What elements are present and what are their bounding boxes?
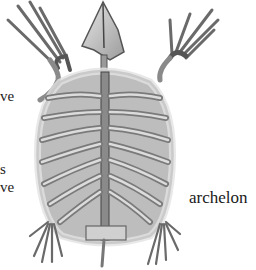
- text-fragment-ve-2: ve: [0, 180, 14, 195]
- caption-archelon: archelon: [189, 188, 248, 208]
- right-front-flipper: [170, 10, 218, 58]
- text-fragment-ve-1: ve: [0, 89, 14, 104]
- left-front-flipper: [8, 2, 70, 70]
- text-fragment-s: s: [0, 162, 6, 177]
- turtle-skeleton-illustration: [0, 0, 256, 270]
- figure-canvas: ve s ve archelon: [0, 0, 256, 270]
- tail: [102, 240, 104, 266]
